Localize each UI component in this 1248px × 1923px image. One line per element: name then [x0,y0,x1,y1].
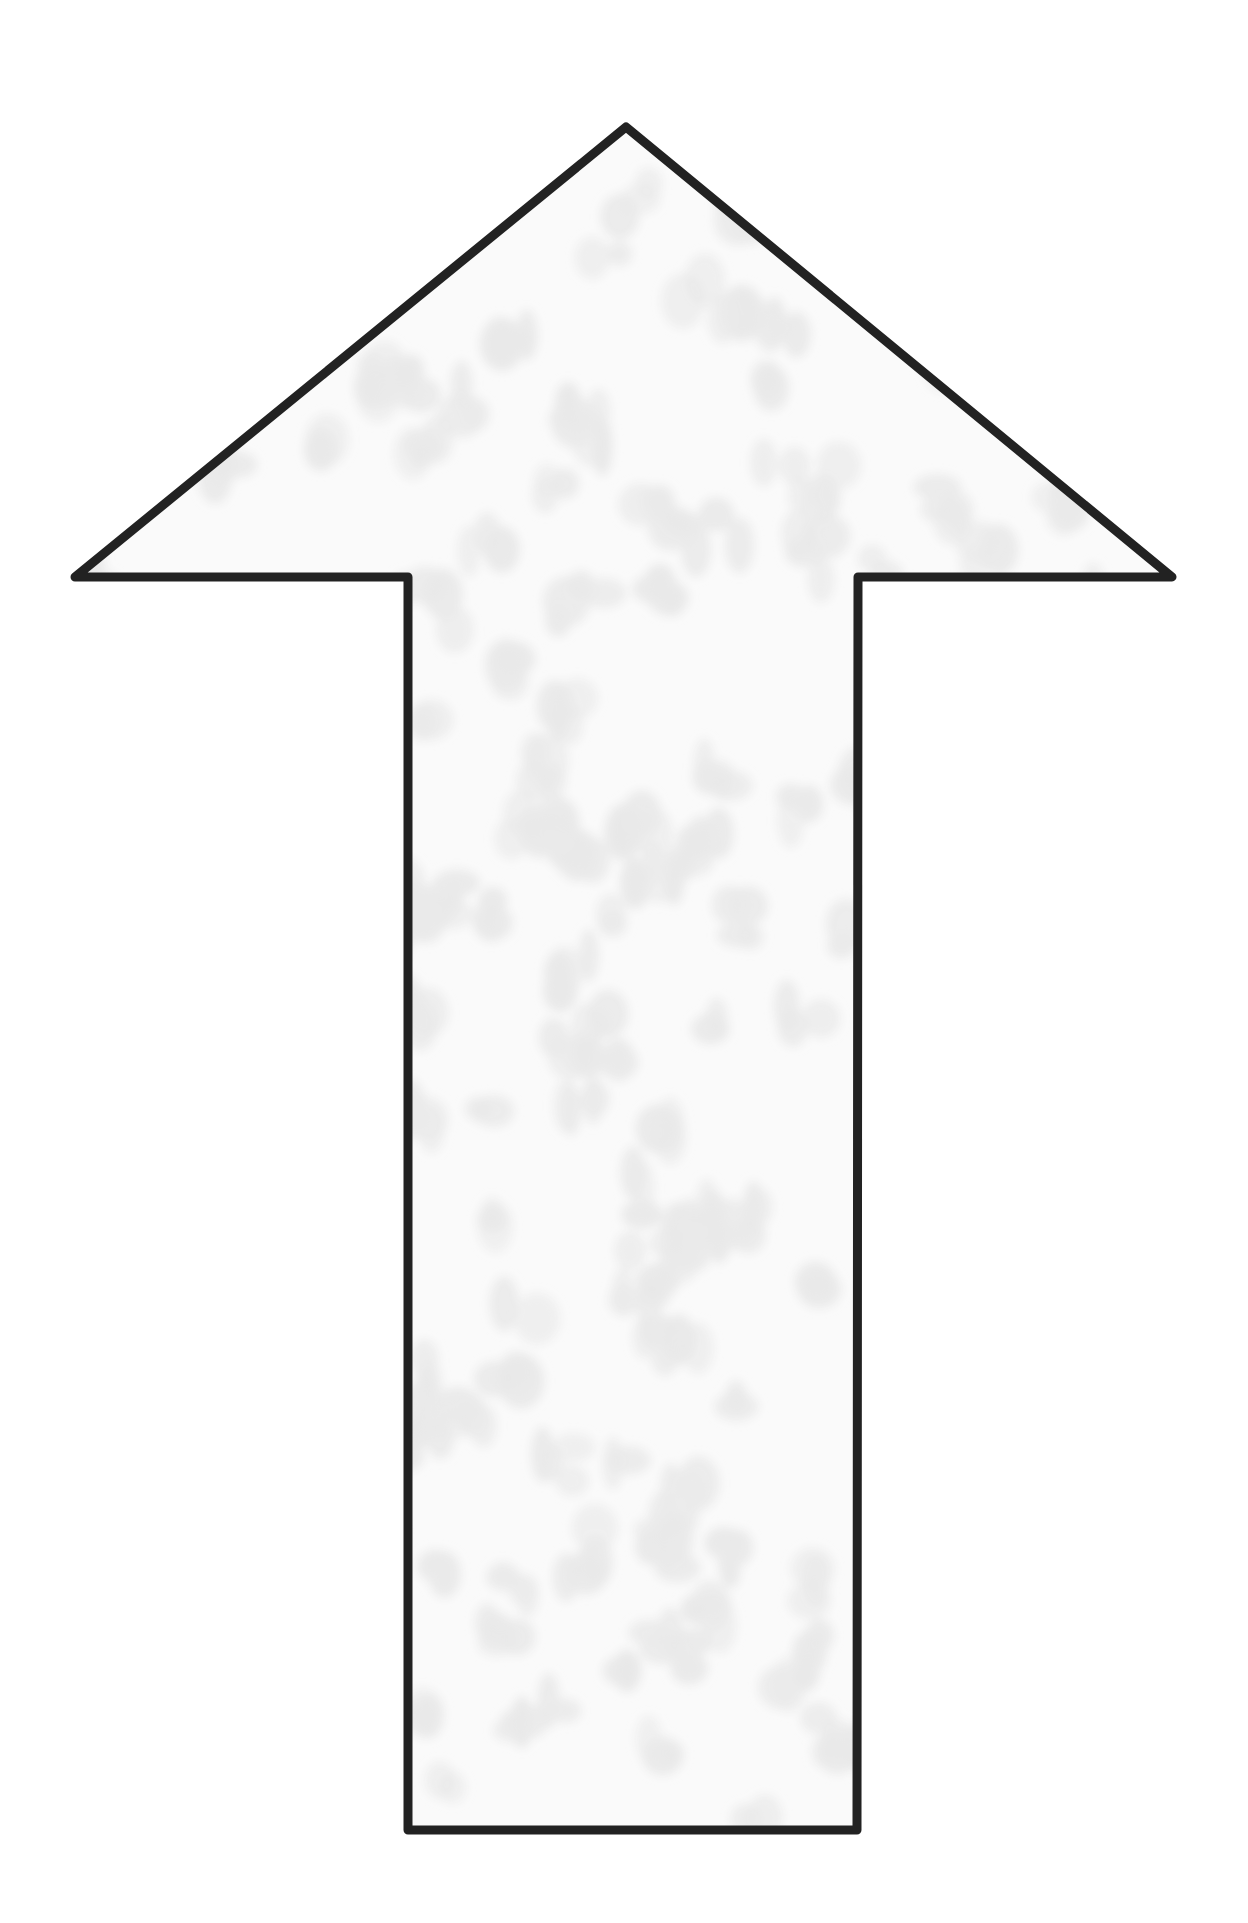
arrow-figure [0,0,1248,1923]
arrow-fill [75,127,1172,1830]
